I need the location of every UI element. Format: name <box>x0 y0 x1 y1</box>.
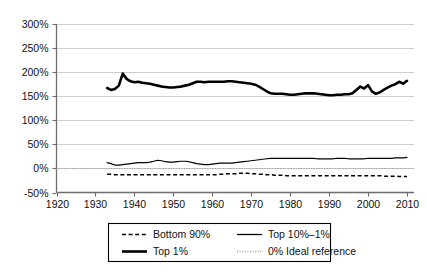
y-tick-label: 50% <box>27 138 48 150</box>
legend: Bottom 90%Top 10%–1%Top 1%0% Ideal refer… <box>109 224 357 262</box>
x-tick-label: 2000 <box>357 198 381 210</box>
series-line-bottom-90 <box>107 173 407 176</box>
y-axis <box>53 24 57 194</box>
legend-label: Top 1% <box>153 245 188 257</box>
chart-container: -50%0%50%100%150%200%250%300% 1920193019… <box>0 0 427 274</box>
legend-label: 0% Ideal reference <box>268 245 356 257</box>
y-tick-label: -50% <box>24 187 49 199</box>
y-tick-labels: -50%0%50%100%150%200%250%300% <box>22 18 49 199</box>
x-tick-label: 1960 <box>201 198 225 210</box>
x-tick-label: 1930 <box>84 198 108 210</box>
x-tick-label: 1970 <box>240 198 264 210</box>
x-tick-label: 1940 <box>123 198 147 210</box>
series-line-top-1 <box>107 74 407 96</box>
x-axis <box>57 193 415 197</box>
x-tick-label: 1990 <box>318 198 342 210</box>
gridlines <box>57 25 415 169</box>
plot-series <box>57 74 415 177</box>
y-tick-label: 0% <box>33 162 48 174</box>
x-tick-label: 1950 <box>162 198 186 210</box>
y-tick-label: 100% <box>22 114 49 126</box>
y-tick-label: 300% <box>22 18 49 30</box>
line-chart: -50%0%50%100%150%200%250%300% 1920193019… <box>0 0 427 274</box>
x-tick-label: 2010 <box>396 198 420 210</box>
x-tick-label: 1980 <box>279 198 303 210</box>
legend-label: Bottom 90% <box>153 228 210 240</box>
series-line-top-10-to-1 <box>107 157 407 165</box>
y-tick-label: 250% <box>22 42 49 54</box>
x-tick-label: 1920 <box>46 198 70 210</box>
x-tick-labels: 1920193019401950196019701980199020002010 <box>46 198 420 210</box>
y-tick-label: 150% <box>22 90 49 102</box>
y-tick-label: 200% <box>22 66 49 78</box>
legend-label: Top 10%–1% <box>268 228 330 240</box>
